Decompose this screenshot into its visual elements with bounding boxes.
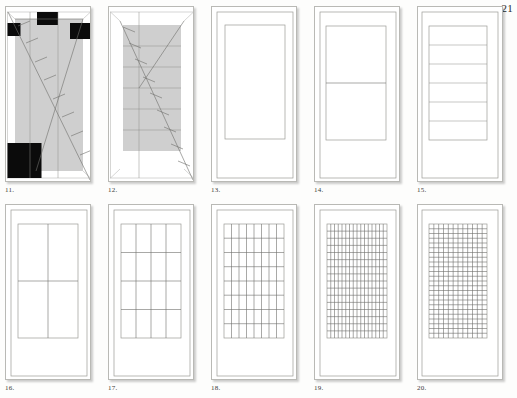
scanned-book-page: 21 [0,0,517,398]
figure-11-drawing [6,7,91,182]
figure-20-drawing [418,205,503,380]
figure-15-drawing [418,7,503,182]
figure-caption: 15. [417,186,426,194]
figure-14-drawing [315,7,400,182]
figure-12: 12. [108,6,194,182]
figure-17-drawing [109,205,194,380]
figure-16: 16. [5,204,91,380]
figure-13-plate [211,6,297,182]
figure-11: 11. [5,6,91,182]
figure-16-drawing [6,205,91,380]
figure-caption: 20. [417,384,426,392]
figure-row-bottom: 16. 17. [0,198,517,397]
figure-19: 19. [314,204,400,380]
figure-caption: 19. [314,384,323,392]
figure-caption: 11. [5,186,14,194]
figure-12-plate [108,6,194,182]
figure-11-plate [5,6,91,182]
figure-caption: 18. [211,384,220,392]
figure-17: 17. [108,204,194,380]
figure-caption: 16. [5,384,14,392]
figure-18-plate [211,204,297,380]
figure-13: 13. [211,6,297,182]
figure-caption: 12. [108,186,117,194]
figure-20: 20. [417,204,503,380]
figure-caption: 17. [108,384,117,392]
figure-15-plate [417,6,503,182]
figure-13-drawing [212,7,297,182]
figure-14-plate [314,6,400,182]
figure-15: 15. [417,6,503,182]
figure-17-plate [108,204,194,380]
figure-19-drawing [315,205,400,380]
figure-16-plate [5,204,91,380]
figure-18-drawing [212,205,297,380]
figure-18: 18. [211,204,297,380]
figure-20-plate [417,204,503,380]
figure-row-top: 11. [0,0,517,199]
figure-12-drawing [109,7,194,182]
figure-caption: 13. [211,186,220,194]
figure-caption: 14. [314,186,323,194]
figure-19-plate [314,204,400,380]
figure-14: 14. [314,6,400,182]
